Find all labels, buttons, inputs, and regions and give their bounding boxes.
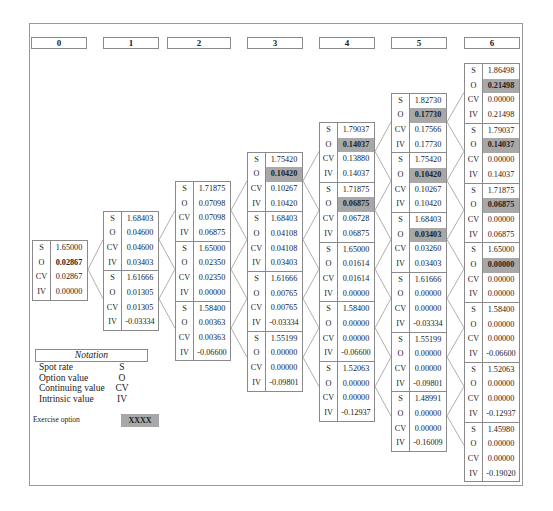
node-value-iv: 0.06875 — [483, 228, 519, 243]
node-row-s: S1.58400 — [465, 303, 519, 318]
node-value-cv: 0.00000 — [483, 153, 519, 168]
node-value-s: 1.58400 — [483, 303, 519, 318]
tree-node: S1.65000O0.01614CV0.01614IV0.00000 — [320, 242, 374, 302]
node-value-iv: 0.14037 — [338, 167, 374, 182]
row-label: CV — [320, 332, 338, 347]
node-row-iv: IV0.06875 — [465, 228, 519, 243]
legend-item-intrinsic-value: Intrinsic value IV — [35, 394, 148, 405]
row-label: S — [465, 184, 483, 199]
node-row-cv: CV0.00363 — [176, 331, 230, 346]
row-label: IV — [392, 197, 410, 212]
row-label: O — [392, 168, 410, 183]
node-value-o: 0.00000 — [410, 347, 446, 362]
node-row-iv: IV0.03403 — [104, 256, 158, 271]
node-value-iv: 0.00000 — [338, 287, 374, 302]
tree-node: S1.71875O0.07098CV0.07098IV0.06875 — [176, 182, 230, 241]
node-value-iv: 0.03403 — [122, 256, 158, 271]
node-value-o: 0.21498 — [483, 79, 519, 94]
row-label: IV — [248, 376, 266, 391]
row-label: CV — [104, 301, 122, 316]
row-label: IV — [465, 287, 483, 302]
row-label: IV — [33, 285, 51, 300]
node-row-o: O0.00000 — [465, 437, 519, 452]
node-row-iv: IV0.03403 — [248, 256, 302, 271]
row-label: O — [465, 138, 483, 153]
node-value-cv: 0.17566 — [410, 123, 446, 138]
tree-node: S1.55199O0.00000CV0.00000IV-0.09801 — [392, 332, 446, 392]
row-label: S — [320, 243, 338, 258]
row-label: CV — [33, 270, 51, 285]
tree-node: S1.48991O0.00000CV0.00000IV-0.16009 — [392, 391, 446, 451]
node-value-iv: 0.00000 — [194, 286, 230, 301]
row-label: IV — [465, 347, 483, 362]
node-value-o: 0.02867 — [51, 256, 87, 271]
step-header-0: 0 — [31, 37, 87, 49]
node-row-iv: IV0.03403 — [392, 257, 446, 272]
node-row-o: O0.01614 — [320, 257, 374, 272]
row-label: S — [465, 423, 483, 438]
node-row-iv: IV-0.19020 — [465, 467, 519, 482]
tree-node: S1.58400O0.00000CV0.00000IV-0.06600 — [465, 302, 519, 362]
node-row-cv: CV0.00000 — [465, 392, 519, 407]
node-row-cv: CV0.10267 — [392, 183, 446, 198]
node-value-s: 1.58400 — [194, 302, 230, 317]
row-label: CV — [320, 152, 338, 167]
row-label: S — [320, 183, 338, 198]
node-row-cv: CV0.00000 — [320, 332, 374, 347]
node-row-cv: CV0.00000 — [248, 361, 302, 376]
node-row-iv: IV-0.06600 — [320, 346, 374, 361]
row-label: S — [392, 333, 410, 348]
node-row-s: S1.55199 — [248, 332, 302, 347]
node-value-cv: 0.00000 — [410, 302, 446, 317]
node-row-s: S1.75420 — [392, 153, 446, 168]
legend-title: Notation — [35, 349, 148, 362]
node-value-s: 1.86498 — [483, 64, 519, 79]
node-row-iv: IV0.00000 — [33, 285, 87, 300]
row-label: CV — [392, 422, 410, 437]
node-value-iv: -0.09801 — [410, 377, 446, 392]
step-header-1: 1 — [103, 37, 159, 49]
row-label: CV — [248, 242, 266, 257]
node-value-o: 0.06875 — [338, 197, 374, 212]
node-value-o: 0.01305 — [122, 286, 158, 301]
node-value-iv: 0.17730 — [410, 138, 446, 153]
step-column-4: S1.79037O0.14037CV0.13880IV0.14037S1.718… — [319, 122, 375, 422]
node-value-iv: -0.19020 — [483, 467, 519, 482]
node-value-cv: 0.00000 — [410, 422, 446, 437]
node-row-s: S1.61666 — [248, 272, 302, 287]
node-value-o: 0.00363 — [194, 316, 230, 331]
row-label: S — [248, 212, 266, 227]
node-value-cv: 0.00000 — [410, 362, 446, 377]
node-value-iv: 0.03403 — [410, 257, 446, 272]
node-row-o: O0.03403 — [392, 228, 446, 243]
node-value-cv: 0.00000 — [338, 391, 374, 406]
step-column-2: S1.71875O0.07098CV0.07098IV0.06875S1.650… — [175, 181, 231, 361]
node-row-cv: CV0.04108 — [248, 242, 302, 257]
node-value-o: 0.06875 — [483, 198, 519, 213]
node-value-o: 0.14037 — [338, 138, 374, 153]
node-row-o: O0.00000 — [465, 318, 519, 333]
node-row-s: S1.48991 — [392, 392, 446, 407]
node-value-cv: 0.00000 — [483, 93, 519, 108]
node-row-s: S1.82730 — [392, 94, 446, 109]
node-value-cv: 0.00000 — [483, 213, 519, 228]
row-label: IV — [320, 406, 338, 421]
row-label: O — [320, 317, 338, 332]
node-value-s: 1.61666 — [410, 273, 446, 288]
node-row-iv: IV-0.03334 — [392, 317, 446, 332]
row-label: CV — [392, 302, 410, 317]
node-value-o: 0.10420 — [410, 168, 446, 183]
node-value-iv: 0.10420 — [410, 197, 446, 212]
node-row-cv: CV0.00000 — [392, 422, 446, 437]
node-value-o: 0.03403 — [410, 228, 446, 243]
node-row-s: S1.61666 — [104, 271, 158, 286]
row-label: CV — [465, 332, 483, 347]
node-row-s: S1.71875 — [465, 184, 519, 199]
node-value-cv: 0.10267 — [410, 183, 446, 198]
row-label: O — [320, 377, 338, 392]
node-value-s: 1.65000 — [338, 243, 374, 258]
legend-item-option-value: Option value O — [35, 373, 148, 384]
node-row-o: O0.14037 — [320, 138, 374, 153]
step-header-2: 2 — [167, 37, 231, 49]
row-label: IV — [320, 167, 338, 182]
